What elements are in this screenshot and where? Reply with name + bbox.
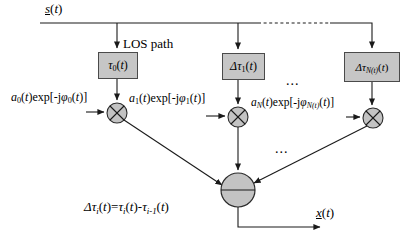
branch-n-arrow — [330, 23, 372, 48]
delay-box-1-label: Δτ1(t) — [230, 59, 257, 74]
delay-difference-formula: Δτi(t)=τi(t)-τi-1(t) — [84, 200, 169, 215]
adder-node — [221, 173, 255, 207]
delay-box-n: ΔτN(t)(t) — [344, 52, 400, 82]
los-path-label: LOS path — [123, 37, 173, 52]
output-arrow — [238, 207, 320, 227]
multiplier-node-1 — [228, 107, 248, 127]
input-signal-label: s(t) — [45, 2, 62, 17]
channel-model-diagram: τ0(t) Δτ1(t) ΔτN(t)(t) s(t) LOS path a0(… — [0, 0, 412, 241]
multn-to-sum-arrow — [254, 126, 367, 183]
delay-box-0-label: τ0(t) — [108, 58, 128, 73]
mult0-to-sum-arrow — [124, 120, 222, 185]
delay-box-0: τ0(t) — [98, 52, 138, 79]
gain-1-label: a1(t)exp[-jφ1(t)] — [129, 92, 205, 106]
gain-n-label: aN(t)exp[-jφN(t)(t)] — [251, 96, 334, 109]
output-signal-label: x(t) — [316, 206, 334, 221]
ellipsis-mid: ... — [275, 141, 289, 157]
gain-0-label: a0(t)exp[-jφ0(t)] — [11, 91, 87, 105]
delay-box-1: Δτ1(t) — [222, 53, 265, 80]
multiplier-node-n — [363, 108, 383, 128]
ellipsis-top: ... — [286, 73, 300, 89]
delay-box-n-label: ΔτN(t)(t) — [356, 61, 389, 73]
diagram-canvas — [0, 0, 412, 241]
